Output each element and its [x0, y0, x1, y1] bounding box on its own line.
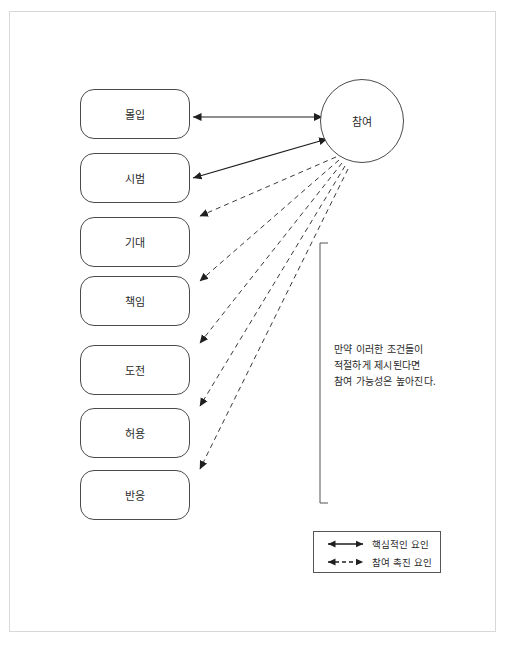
dashed-connectors — [200, 157, 348, 469]
factor-label: 몰입 — [125, 106, 146, 122]
factor-label: 시범 — [125, 170, 146, 186]
diagram-canvas: 몰입 시범 기대 책임 도전 허용 반응 참여 만약 이러한 조건들이 적절하게… — [0, 0, 507, 645]
legend-solid-arrow-icon — [320, 535, 370, 553]
condition-note-line-2: 적절하게 제시된다면 — [334, 358, 438, 374]
legend-item-promoting-factor: 참여 촉진 요인 — [314, 553, 442, 571]
factor-box-gidae[interactable]: 기대 — [80, 217, 190, 267]
legend-dashed-arrow-icon — [320, 553, 370, 571]
solid-connectors — [193, 117, 327, 178]
connector-chamyeo-to-gidae — [200, 157, 336, 216]
factor-label: 책임 — [125, 293, 146, 309]
factor-label: 도전 — [125, 362, 146, 378]
condition-note: 만약 이러한 조건들이 적절하게 제시된다면 참여 가능성은 높아진다. — [334, 342, 438, 390]
connector-chamyeo-to-dojeon — [200, 163, 342, 343]
legend-label: 핵심적인 요인 — [372, 537, 429, 551]
connector-chamyeo-to-baneung — [200, 169, 348, 469]
legend-item-core-factor: 핵심적인 요인 — [314, 535, 442, 553]
legend: 핵심적인 요인 참여 촉진 요인 — [313, 531, 441, 573]
factor-box-sibeom[interactable]: 시범 — [80, 153, 190, 203]
factor-box-molip[interactable]: 몰입 — [80, 89, 190, 139]
condition-bracket — [320, 243, 328, 503]
connector-chamyeo-to-heoyong — [200, 166, 345, 406]
connector-sibeom-to-chamyeo — [193, 139, 327, 178]
factor-box-baneung[interactable]: 반응 — [80, 470, 190, 520]
hub-label: 참여 — [352, 113, 373, 129]
factor-label: 허용 — [125, 425, 146, 441]
condition-note-line-1: 만약 이러한 조건들이 — [334, 342, 438, 358]
connector-chamyeo-to-chaegim — [200, 160, 339, 281]
factor-label: 반응 — [125, 487, 146, 503]
factor-box-dojeon[interactable]: 도전 — [80, 345, 190, 395]
factor-box-heoyong[interactable]: 허용 — [80, 408, 190, 458]
legend-label: 참여 촉진 요인 — [372, 555, 432, 569]
factor-box-chaegim[interactable]: 책임 — [80, 276, 190, 326]
hub-node-chamyeo[interactable]: 참여 — [320, 79, 404, 163]
condition-note-line-3: 참여 가능성은 높아진다. — [334, 374, 438, 390]
factor-label: 기대 — [125, 234, 146, 250]
